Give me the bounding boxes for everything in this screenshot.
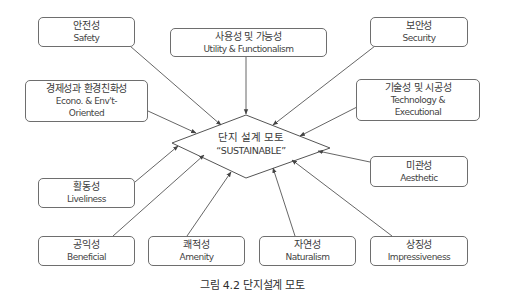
node-utility-ko: 사용성 및 가능성	[215, 31, 282, 43]
center-label-en: “SUSTAINABLE”	[172, 144, 330, 157]
node-naturalism-en: Naturalism	[285, 251, 329, 263]
node-econo-en: Econo. & Env't-	[56, 95, 117, 107]
node-aesthetic: 미관성 Aesthetic	[370, 156, 468, 187]
node-security-ko: 보안성	[406, 20, 432, 32]
node-aesthetic-en: Aesthetic	[400, 172, 437, 184]
node-beneficial: 공익성 Beneficial	[38, 236, 135, 266]
center-label: 단지 설계 모토 “SUSTAINABLE”	[172, 131, 330, 157]
node-technology-en: Technology &	[391, 94, 445, 106]
node-beneficial-en: Beneficial	[67, 251, 106, 263]
node-liveliness-ko: 활동성	[73, 181, 99, 193]
node-econo-ko: 경제성과 환경친화성	[46, 83, 127, 95]
node-technology: 기술성 및 시공성 Technology & Executional	[356, 79, 480, 121]
node-liveliness-en: Liveliness	[67, 193, 106, 205]
figure-caption: 그림 4.2 단지설계 모토	[0, 276, 505, 292]
node-security: 보안성 Security	[370, 17, 468, 47]
node-amenity: 쾌적성 Amenity	[148, 236, 245, 266]
node-safety: 안전성 Safety	[38, 17, 135, 47]
node-econo: 경제성과 환경친화성 Econo. & Env't- Oriented	[25, 80, 148, 122]
node-impressiveness: 상징성 Impressiveness	[370, 236, 468, 266]
node-technology-en-2: Executional	[395, 106, 442, 118]
node-safety-en: Safety	[74, 32, 100, 44]
node-naturalism-ko: 자연성	[294, 239, 320, 251]
node-impressiveness-ko: 상징성	[406, 239, 432, 251]
node-amenity-en: Amenity	[179, 251, 213, 263]
node-naturalism: 자연성 Naturalism	[259, 236, 356, 266]
node-security-en: Security	[403, 32, 436, 44]
arrow-naturalism	[273, 168, 295, 236]
node-utility-en: Utility & Functionalism	[204, 43, 294, 55]
node-impressiveness-en: Impressiveness	[388, 251, 451, 263]
node-safety-ko: 안전성	[73, 20, 99, 32]
center-label-ko: 단지 설계 모토	[172, 131, 330, 144]
node-technology-ko: 기술성 및 시공성	[385, 82, 452, 94]
node-beneficial-ko: 공익성	[73, 239, 99, 251]
arrow-amenity	[187, 172, 231, 236]
node-liveliness: 활동성 Liveliness	[38, 178, 135, 208]
node-amenity-ko: 쾌적성	[183, 239, 209, 251]
node-utility: 사용성 및 가능성 Utility & Functionalism	[170, 28, 327, 57]
arrow-econo	[148, 111, 196, 133]
node-aesthetic-ko: 미관성	[406, 160, 432, 172]
node-econo-en-2: Oriented	[69, 107, 104, 119]
